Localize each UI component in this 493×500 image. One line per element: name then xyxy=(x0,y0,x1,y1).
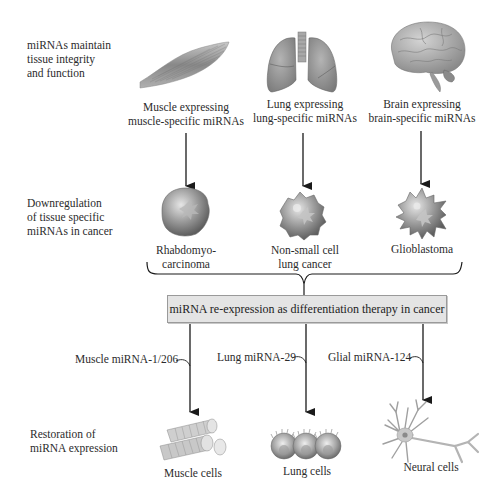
cancer-caption-rhabdomyocarcinoma: Rhabdomyo- carcinoma xyxy=(136,243,236,271)
neural-cell-icon xyxy=(383,400,478,462)
cell-caption-muscle: Muscle cells xyxy=(148,466,238,480)
muscle-icon xyxy=(140,42,229,88)
brain-icon xyxy=(391,22,465,92)
caption-line: brain-specific miRNAs xyxy=(362,111,482,125)
muscle-cells-icon xyxy=(160,419,226,460)
tissue-caption-brain: Brain expressing brain-specific miRNAs xyxy=(362,97,482,125)
cell-caption-lung: Lung cells xyxy=(262,464,352,478)
caption-line: lung cancer xyxy=(255,257,355,271)
caption-line: lung-specific miRNAs xyxy=(245,111,365,125)
caption-line: muscle-specific miRNAs xyxy=(126,114,246,128)
lung-cells-icon xyxy=(271,429,341,459)
tissue-caption-muscle: Muscle expressing muscle-specific miRNAs xyxy=(126,100,246,128)
cancer-caption-glioblastoma: Glioblastoma xyxy=(372,242,472,256)
caption-line: Rhabdomyo- xyxy=(136,243,236,257)
glioblastoma-cell-icon xyxy=(396,188,446,239)
caption-line: Lung expressing xyxy=(245,97,365,111)
nsclc-cell-icon xyxy=(280,192,326,240)
mirna-label-muscle: Muscle miRNA-1/206 xyxy=(75,353,178,365)
caption-line: Non-small cell xyxy=(255,243,355,257)
caption-line: Glioblastoma xyxy=(372,242,472,256)
caption-line: carcinoma xyxy=(136,257,236,271)
cancer-caption-nsclc: Non-small cell lung cancer xyxy=(255,243,355,271)
caption-line: Muscle expressing xyxy=(126,100,246,114)
tissue-caption-lung: Lung expressing lung-specific miRNAs xyxy=(245,97,365,125)
mirna-label-lung: Lung miRNA-29 xyxy=(217,351,296,363)
lungs-icon xyxy=(267,32,337,92)
mirna-label-glial: Glial miRNA-124 xyxy=(328,351,411,363)
rhabdomyosarcoma-cell-icon xyxy=(162,188,209,236)
cell-caption-neural: Neural cells xyxy=(386,460,476,474)
therapy-box: miRNA re-expression as differentiation t… xyxy=(167,295,447,323)
caption-line: Brain expressing xyxy=(362,97,482,111)
